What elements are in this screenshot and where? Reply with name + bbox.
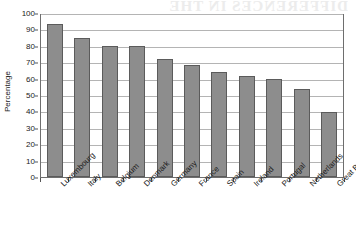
y-axis-tick-mark bbox=[35, 161, 38, 162]
page-bleed-through-text: DIFFERENCES IN THE bbox=[58, 0, 348, 14]
x-axis-category-label: Ireland bbox=[252, 182, 258, 188]
y-axis-tick-mark bbox=[35, 178, 38, 179]
bar-slot bbox=[96, 15, 123, 177]
bar bbox=[102, 46, 118, 177]
y-axis-tick-mark bbox=[35, 112, 38, 113]
bar-series bbox=[41, 15, 343, 177]
x-axis-category-label: Denmark bbox=[142, 182, 148, 188]
y-axis-tick-label: 70 bbox=[26, 59, 35, 67]
x-axis-category-label: Germany bbox=[169, 182, 175, 188]
y-axis-tick-labels: 0102030405060708090100 bbox=[14, 14, 38, 178]
y-axis-tick-label: 20 bbox=[26, 141, 35, 149]
x-axis-category-label: Netherlands bbox=[308, 182, 314, 188]
x-axis-category-label: Spain bbox=[225, 182, 231, 188]
y-axis-tick-mark bbox=[35, 46, 38, 47]
y-axis-tick-label: 30 bbox=[26, 125, 35, 133]
y-axis-tick-label: 90 bbox=[26, 26, 35, 34]
x-axis-category-label: Belgium bbox=[114, 182, 120, 188]
y-axis-tick-label: 50 bbox=[26, 92, 35, 100]
y-axis-tick-label: 80 bbox=[26, 43, 35, 51]
bar-slot bbox=[288, 15, 315, 177]
x-axis-category-label: Portugal bbox=[280, 182, 286, 188]
y-axis-tick-label: 60 bbox=[26, 76, 35, 84]
y-axis-tick-label: 10 bbox=[26, 158, 35, 166]
plot-area bbox=[40, 14, 344, 178]
x-axis-category-label: France bbox=[197, 182, 203, 188]
y-axis-tick-mark bbox=[35, 96, 38, 97]
bar bbox=[239, 76, 255, 177]
bar-slot bbox=[233, 15, 260, 177]
y-axis-tick-mark bbox=[35, 30, 38, 31]
bar-slot bbox=[123, 15, 150, 177]
bar-slot bbox=[178, 15, 205, 177]
y-axis-tick-mark bbox=[35, 63, 38, 64]
x-axis-category-labels: LuxembourgItalyBelgiumDenmarkGermanyFran… bbox=[40, 182, 344, 246]
y-axis-title-label: Percentage bbox=[3, 71, 12, 112]
bar bbox=[211, 72, 227, 177]
y-axis-title: Percentage bbox=[0, 0, 14, 182]
y-axis-tick-mark bbox=[35, 79, 38, 80]
bar bbox=[129, 46, 145, 177]
y-axis-tick-mark bbox=[35, 14, 38, 15]
bar-slot bbox=[206, 15, 233, 177]
y-axis-tick-label: 100 bbox=[22, 10, 35, 18]
x-axis-category-label: Great Britain bbox=[335, 182, 341, 188]
y-axis-tick-label: 40 bbox=[26, 108, 35, 116]
x-axis-category-label: Italy bbox=[86, 182, 92, 188]
y-axis-tick-mark bbox=[35, 145, 38, 146]
bar bbox=[47, 24, 63, 177]
bar-chart-figure: DIFFERENCES IN THE Percentage 0102030405… bbox=[0, 0, 356, 246]
x-axis-category-label: Luxembourg bbox=[59, 182, 65, 188]
bar bbox=[266, 79, 282, 177]
bar-slot bbox=[151, 15, 178, 177]
bar-slot bbox=[261, 15, 288, 177]
y-axis-tick-mark bbox=[35, 128, 38, 129]
bar-slot bbox=[41, 15, 68, 177]
